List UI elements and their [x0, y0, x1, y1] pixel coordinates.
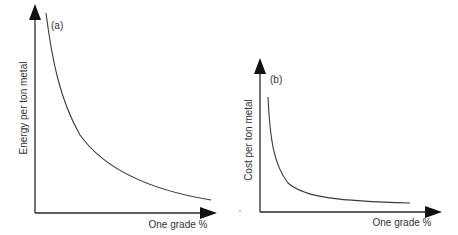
- y-axis-label-b: Cost per ton metal: [243, 99, 254, 181]
- chart-canvas: (a) Energy per ton metal One grade % (b)…: [0, 0, 458, 235]
- y-axis-arrow-a-icon: [29, 4, 41, 20]
- panel-b: (b) Cost per ton metal One grade %: [239, 58, 442, 228]
- x-axis-label-b: One grade %: [373, 217, 432, 228]
- panel-tag-a: (a): [51, 20, 63, 31]
- curve-a: [46, 13, 211, 200]
- x-axis-label-a: One grade %: [149, 219, 208, 230]
- y-axis-arrow-b-icon: [254, 58, 266, 74]
- curve-b: [268, 97, 410, 203]
- stray-dot: [239, 210, 241, 212]
- y-axis-label-a: Energy per ton metal: [18, 62, 29, 155]
- panel-a: (a) Energy per ton metal One grade %: [18, 4, 217, 230]
- x-axis-arrow-a-icon: [200, 207, 217, 219]
- panel-tag-b: (b): [270, 74, 282, 85]
